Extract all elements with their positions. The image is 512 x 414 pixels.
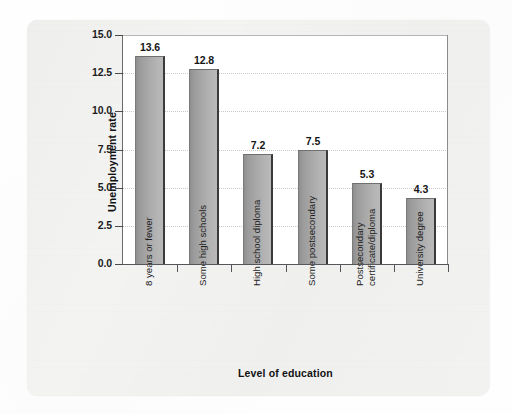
x-axis-title: Level of education	[123, 367, 448, 379]
y-axis-tick	[115, 226, 123, 227]
y-axis-tick-label: 0.0	[76, 257, 112, 269]
x-axis-tick	[394, 264, 395, 272]
x-axis-category-label: High school diploma	[251, 272, 265, 284]
scanned-page-background: Unemployment rate 0.02.55.07.510.012.515…	[0, 0, 512, 414]
x-axis-category-line: Some high schools	[197, 205, 208, 286]
x-axis-category-label: Some high schools	[197, 272, 211, 284]
y-axis-tick	[115, 73, 123, 74]
y-axis-tick-label: 2.5	[76, 219, 112, 231]
y-axis-tick	[115, 188, 123, 189]
x-axis-category-label: Some postsecondary	[306, 272, 320, 284]
x-axis-category-line: High school diploma	[251, 200, 262, 286]
plot-border-top	[122, 35, 448, 36]
x-axis-category-line: certificate/diploma	[366, 272, 378, 286]
bar-value-label: 13.6	[123, 41, 177, 53]
x-axis-category-label: Postsecondarycertificate/diploma	[354, 272, 368, 295]
y-axis-tick	[115, 111, 123, 112]
x-axis-category-line: University degree	[414, 211, 425, 286]
x-axis-category-line: Some postsecondary	[306, 196, 317, 286]
x-axis-category-line: 8 years or fewer	[143, 217, 154, 286]
y-axis-tick-label: 7.5	[76, 143, 112, 155]
bar-value-label: 5.3	[340, 168, 394, 180]
gridline	[123, 150, 448, 151]
bar-value-label: 7.2	[231, 139, 285, 151]
plot-area	[123, 35, 448, 264]
bar-value-label: 12.8	[177, 54, 231, 66]
bar-value-label: 4.3	[394, 183, 448, 195]
x-axis-tick	[231, 264, 232, 272]
x-axis-tick	[448, 264, 449, 272]
x-axis-category-label: 8 years or fewer	[143, 272, 157, 284]
bar-value-label: 7.5	[286, 135, 340, 147]
y-axis-tick-label: 15.0	[76, 28, 112, 40]
y-axis-tick-label: 10.0	[76, 104, 112, 116]
x-axis-category-label: University degree	[414, 272, 428, 284]
y-axis-tick-label: 12.5	[76, 66, 112, 78]
y-axis-tick-label: 5.0	[76, 181, 112, 193]
x-axis-tick	[177, 264, 178, 272]
x-axis-line	[122, 264, 448, 265]
x-axis-tick	[286, 264, 287, 272]
gridline	[123, 226, 448, 227]
y-axis-tick	[115, 35, 123, 36]
gridline	[123, 111, 448, 112]
y-axis-tick-labels: 0.02.55.07.510.012.515.0	[70, 0, 112, 300]
y-axis-tick	[115, 150, 123, 151]
x-axis-category-line: Postsecondary	[354, 223, 365, 286]
x-axis-tick	[340, 264, 341, 272]
plot-border-right	[447, 35, 448, 265]
gridline	[123, 73, 448, 74]
